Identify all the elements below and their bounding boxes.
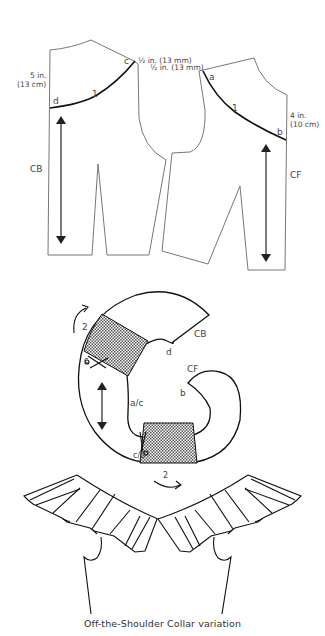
point-a-label: a <box>209 72 215 82</box>
collar-point-b: b <box>180 388 186 398</box>
seam-1-back-label: 1 <box>92 89 98 99</box>
rotate-arrow-icon <box>154 481 180 487</box>
back-bodice-pattern: c d 1 5 in. (13 cm) CB ½ in. (13 mm) <box>17 40 192 255</box>
point-b-label: b <box>277 127 283 137</box>
collar-cb-label: CB <box>194 329 206 339</box>
center-front-label: CF <box>290 170 301 180</box>
spread-insert-lower <box>140 423 197 463</box>
back-neckline-cut <box>50 61 135 108</box>
bodice-right-side <box>214 537 232 614</box>
front-measure-label-cm: (10 cm) <box>290 120 319 129</box>
front-bodice-pattern: a b 1 4 in. (10 cm) CF ½ in. (13 mm) <box>150 58 319 270</box>
collar-pattern-diagram: c d 1 5 in. (13 cm) CB ½ in. (13 mm) a b… <box>0 0 325 636</box>
collar-slash-label-cb: c/b <box>133 451 145 460</box>
rotation-step-top: 2 <box>82 322 88 332</box>
collar-point-ac: a/c <box>130 398 144 408</box>
rotation-step-bottom: 2 <box>163 471 168 480</box>
finished-garment-illustration <box>24 475 301 614</box>
point-c-label: c <box>124 56 129 66</box>
rotate-arrowhead-icon <box>175 481 181 489</box>
back-bodice-outline <box>48 40 166 255</box>
left-ruffle <box>24 475 158 552</box>
collar-spread-pattern: 2 2 CB CF d b a/c c c/b <box>74 292 241 489</box>
front-neckline-cut <box>203 71 286 140</box>
collar-cf-label: CF <box>187 364 198 374</box>
back-measure-label-cm: (13 cm) <box>17 80 46 89</box>
back-measure-label-in: 5 in. <box>30 71 46 80</box>
seam-1-front-label: 1 <box>232 103 238 113</box>
front-bodice-outline <box>162 58 287 270</box>
collar-slash-label-c: c <box>84 356 88 365</box>
bodice-left-side <box>84 537 102 614</box>
point-d-label: d <box>53 96 59 106</box>
center-back-label: CB <box>30 164 42 174</box>
shoulder-note-front: ½ in. (13 mm) <box>150 63 204 72</box>
collar-point-d: d <box>166 347 172 357</box>
figure-caption: Off-the-Shoulder Collar variation <box>0 618 325 629</box>
front-measure-label-in: 4 in. <box>290 111 306 120</box>
